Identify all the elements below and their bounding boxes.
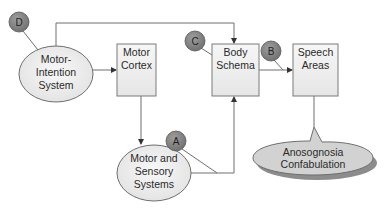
node-label-line: Motor and: [130, 152, 177, 164]
node-motor-and-sensory-systems[interactable]: Motor and Sensory Systems: [117, 145, 191, 201]
edge-intention-to-body-schema: [56, 23, 234, 46]
marker-label: B: [268, 46, 275, 57]
node-anosognosia-callout[interactable]: Anosognosia Confabulation: [253, 127, 377, 180]
node-label-line: Motor-: [41, 53, 72, 65]
marker-label: C: [191, 36, 198, 47]
node-body-schema[interactable]: Body Schema: [212, 44, 259, 96]
node-label-line: Systems: [134, 178, 174, 190]
node-label-line: Intention: [36, 66, 76, 78]
node-label-line: Motor: [123, 46, 150, 58]
callout-label-line: Anosognosia: [283, 146, 344, 158]
marker-label: A: [173, 136, 180, 147]
marker-label: D: [15, 17, 22, 28]
node-motor-intention-system[interactable]: Motor- Intention System: [19, 46, 93, 102]
edge-sensory-to-body-schema: [191, 97, 234, 173]
node-speech-areas[interactable]: Speech Areas: [293, 44, 338, 96]
node-label-line: Areas: [302, 59, 329, 71]
node-label-line: Cortex: [121, 59, 153, 71]
node-label-line: System: [38, 79, 73, 91]
marker-d[interactable]: D: [9, 12, 29, 32]
node-label-line: Body: [224, 46, 249, 58]
marker-b[interactable]: B: [261, 41, 281, 61]
diagram-canvas: Motor- Intention System Motor Cortex Bod…: [0, 0, 385, 212]
callout-label-line: Confabulation: [281, 158, 346, 170]
node-motor-cortex[interactable]: Motor Cortex: [117, 44, 156, 96]
node-label-line: Speech: [298, 46, 334, 58]
marker-c[interactable]: C: [185, 31, 205, 51]
marker-a[interactable]: A: [166, 131, 186, 151]
node-label-line: Sensory: [135, 165, 174, 177]
node-label-line: Schema: [216, 59, 255, 71]
